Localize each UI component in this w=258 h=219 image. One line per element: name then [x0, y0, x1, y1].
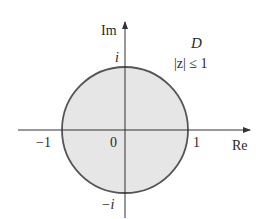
region-name-label: D	[190, 35, 202, 51]
tick-label-i: i	[115, 50, 119, 65]
complex-plane-diagram: Im Re i −i −1 0 1 D |z| ≤ 1	[0, 0, 258, 219]
tick-label-neg-i: −i	[101, 197, 114, 212]
real-axis-label: Re	[232, 138, 248, 153]
imaginary-axis-label: Im	[101, 23, 117, 38]
tick-label-1: 1	[193, 135, 200, 150]
tick-label-neg-1: −1	[36, 135, 51, 150]
tick-label-origin: 0	[110, 135, 117, 150]
region-condition-label: |z| ≤ 1	[174, 56, 208, 71]
